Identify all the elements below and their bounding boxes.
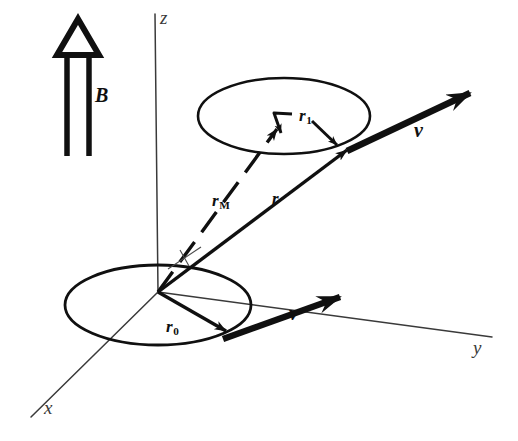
vector-label-r-1-sub: 1 [306, 114, 312, 126]
vector-label-velocity-upper: v [414, 120, 423, 140]
vector-r-1-right [312, 121, 337, 145]
magnetic-field-label: B [95, 85, 108, 105]
axis-label-z: z [160, 8, 167, 27]
vector-label-r-1-base: r [299, 106, 306, 125]
upper-gyro-orbit [198, 78, 370, 154]
diagram-canvas [0, 0, 518, 441]
vector-label-r-0-sub: 0 [173, 325, 179, 337]
axis-label-x: x [44, 398, 52, 417]
axis-z-line [155, 14, 158, 292]
vector-label-r-M-sub: M [219, 199, 230, 211]
vector-label-r: r [272, 190, 279, 207]
vector-label-r-0-base: r [166, 317, 173, 336]
physics-diagram: z y x B rM r r1 r0 v v [0, 0, 518, 441]
vector-label-velocity-lower: v [289, 303, 298, 323]
vector-label-r-1: r1 [299, 107, 312, 127]
b-arrowhead-icon [57, 19, 99, 55]
vector-label-r-M-base: r [212, 191, 219, 210]
axis-label-y: y [473, 338, 481, 357]
axis-y-line [158, 292, 492, 337]
magnetic-field-arrow [57, 19, 99, 156]
vector-r [158, 150, 347, 292]
vector-label-r-0: r0 [166, 318, 179, 338]
vector-label-r-M: rM [212, 192, 230, 212]
